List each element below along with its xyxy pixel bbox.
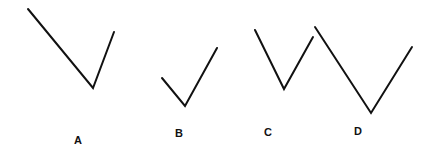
label-d: D	[354, 126, 362, 137]
v-shape-b	[162, 48, 217, 106]
v-shape-c	[255, 30, 313, 89]
v-shape-d	[315, 27, 412, 113]
label-a: A	[74, 135, 82, 146]
v-shape-a	[28, 9, 114, 88]
label-b: B	[175, 128, 183, 139]
v-shapes-diagram	[0, 0, 436, 150]
label-c: C	[264, 127, 272, 138]
